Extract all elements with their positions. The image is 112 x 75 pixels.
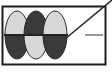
- figure-canvas: [0, 0, 112, 75]
- figure-root: [0, 0, 112, 75]
